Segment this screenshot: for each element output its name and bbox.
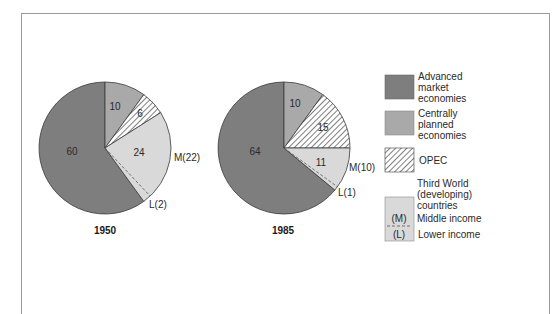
legend-central-line2: planned [418, 119, 466, 130]
pie-1950: 60 10 6 24 M(22) L(2) 1950 [39, 82, 200, 236]
label-central-1985: 10 [289, 98, 301, 109]
label-third-world-1985: 11 [316, 157, 327, 168]
year-1950: 1950 [94, 225, 117, 236]
legend-third-world-line1: Third World [417, 178, 472, 189]
swatch-central [385, 111, 414, 135]
legend-advanced-line3: economies [418, 93, 466, 104]
legend-lower-key: (L) [393, 229, 405, 240]
year-1985: 1985 [272, 225, 295, 236]
swatch-opec [385, 148, 414, 172]
label-advanced-1985: 64 [249, 146, 261, 157]
label-middle-1950: M(22) [174, 152, 200, 163]
legend-central-line1: Centrally [418, 108, 466, 119]
swatch-advanced [385, 75, 414, 99]
legend-third-world-line2: (developing) [417, 189, 472, 200]
legend-advanced: Advanced market economies [418, 71, 466, 104]
label-lower-1985: L(1) [338, 187, 356, 198]
legend-opec: OPEC [419, 155, 447, 166]
legend-central-line3: economies [418, 130, 466, 141]
label-middle-1985: M(10) [349, 162, 375, 173]
label-central-1950: 10 [109, 101, 121, 112]
legend-swatches: (M) (L) [385, 75, 414, 241]
legend-lower-income: Lower income [418, 229, 480, 240]
legend-advanced-line1: Advanced [418, 71, 466, 82]
label-opec-1985: 15 [317, 122, 329, 133]
legend-third-world-line3: countries [417, 200, 472, 211]
legend-middle-key: (M) [392, 213, 407, 224]
pie-1985: 64 10 15 11 M(10) L(1) 1985 [218, 82, 375, 236]
label-opec-1950: 6 [137, 108, 143, 119]
label-third-world-1950: 24 [133, 147, 145, 158]
label-lower-1950: L(2) [149, 199, 167, 210]
legend-third-world: Third World (developing) countries [417, 178, 472, 211]
legend-central: Centrally planned economies [418, 108, 466, 141]
legend-middle-income: Middle income [417, 213, 481, 224]
legend-advanced-line2: market [418, 82, 466, 93]
label-advanced-1950: 60 [66, 146, 78, 157]
